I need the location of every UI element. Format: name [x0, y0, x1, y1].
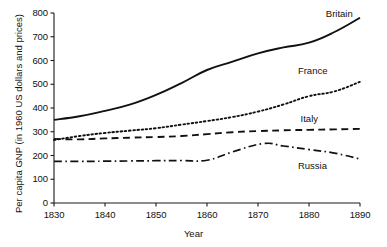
- series-label-italy: Italy: [301, 113, 318, 124]
- y-axis-title: Per capita GNP (in 1960 US dollars and p…: [13, 14, 24, 213]
- x-tick-label: 1870: [238, 209, 278, 220]
- x-tick-label: 1840: [85, 209, 125, 220]
- x-axis-title: Year: [0, 228, 387, 239]
- series-label-france: France: [298, 65, 328, 76]
- gnp-line-chart: 0100200300400500600700800 18301840185018…: [0, 0, 387, 247]
- series-label-britain: Britain: [326, 8, 353, 19]
- series-line-france: [54, 82, 360, 140]
- x-tick-label: 1850: [136, 209, 176, 220]
- x-tick-label: 1880: [289, 209, 329, 220]
- x-tick-label: 1860: [187, 209, 227, 220]
- x-tick-label: 1830: [34, 209, 74, 220]
- series-label-russia: Russia: [298, 160, 327, 171]
- x-tick-label: 1890: [340, 209, 380, 220]
- series-line-russia: [54, 143, 360, 161]
- series-group: [54, 18, 360, 162]
